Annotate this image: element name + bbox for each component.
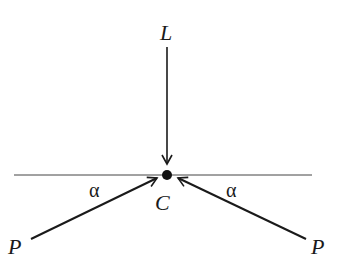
center-point-dot <box>162 170 172 180</box>
angle-alpha-right: α <box>226 180 236 200</box>
label-P-right: P <box>311 236 324 258</box>
arrow-from-right-P <box>178 178 306 239</box>
angle-alpha-left: α <box>89 180 99 200</box>
label-L: L <box>160 22 172 44</box>
label-P-left: P <box>8 236 21 258</box>
label-C: C <box>155 192 170 214</box>
